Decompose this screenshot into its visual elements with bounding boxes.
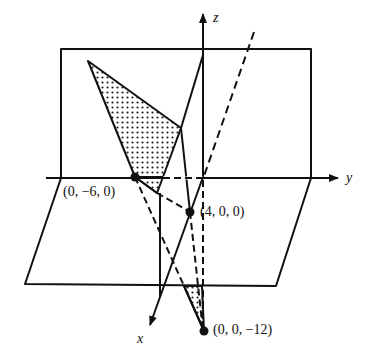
point-label-0-0-neg12: (0, 0, −12) [213,322,272,338]
point-0-0-neg12 [200,327,209,336]
y-axis-label: y [346,170,352,186]
point-4-0-0 [186,208,195,217]
point-0-neg6-0 [131,173,140,182]
point-label-4-0-0: (4, 0, 0) [200,204,244,220]
3d-plane-diagram [0,0,369,360]
shaded-triangle-upper [88,61,181,177]
z-axis-label: z [213,10,218,26]
point-label-0-neg6-0: (0, −6, 0) [63,184,115,200]
x-axis-label: x [137,331,143,347]
